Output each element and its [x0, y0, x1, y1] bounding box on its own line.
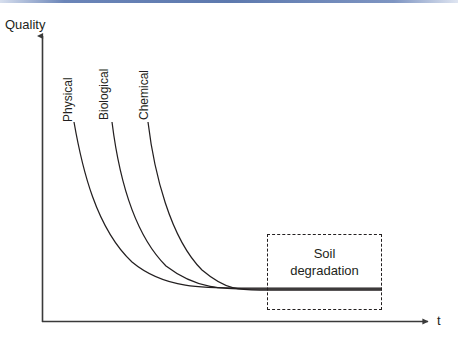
- curve-label-physical: Physical: [62, 77, 74, 122]
- soil-quality-degradation-figure: Quality t Physical Biological Chemical S…: [0, 0, 458, 339]
- curve-label-biological: Biological: [98, 69, 110, 120]
- y-axis-label: Quality: [5, 18, 45, 31]
- soil-degradation-annotation-text: Soil degradation: [267, 245, 382, 279]
- x-axis-label: t: [437, 314, 441, 327]
- soil-degradation-line-2: degradation: [267, 262, 382, 279]
- curve-label-chemical: Chemical: [138, 70, 150, 120]
- soil-degradation-line-1: Soil: [267, 245, 382, 262]
- plot-canvas: [0, 0, 458, 339]
